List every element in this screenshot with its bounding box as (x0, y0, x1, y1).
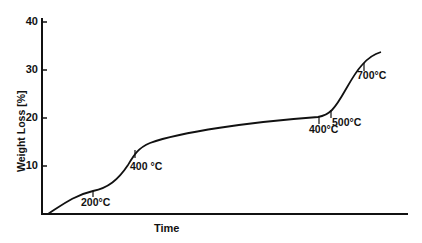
y-tick-label-40: 40 (14, 15, 38, 27)
weight-loss-chart: 40 30 20 10 Weight Loss [%] Time 200°C 4… (0, 0, 422, 243)
annotation-700c: 700°C (357, 69, 386, 81)
annotation-500c: 500°C (332, 116, 361, 128)
x-axis-label: Time (154, 222, 179, 234)
y-tick-label-30: 30 (14, 63, 38, 75)
y-axis-label: Weight Loss [%] (15, 91, 27, 172)
annotation-400c-a: 400 °C (130, 160, 162, 172)
annotation-200c: 200°C (81, 196, 110, 208)
